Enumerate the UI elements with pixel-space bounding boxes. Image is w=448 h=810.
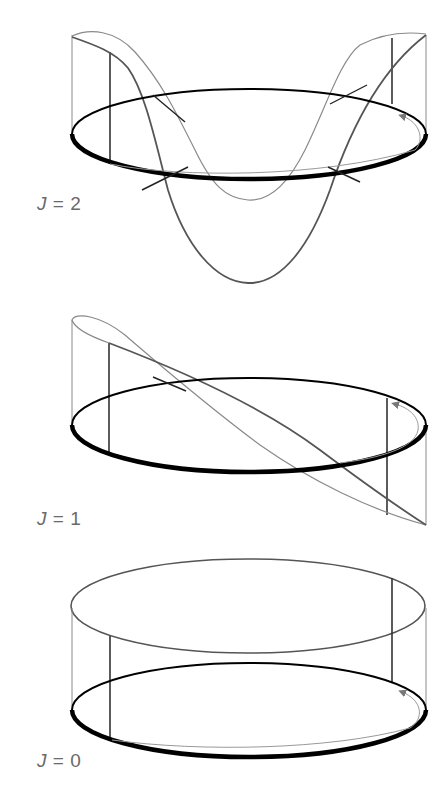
label-value: 1 (70, 508, 81, 529)
top-ring (71, 559, 425, 653)
panel-j2 (72, 32, 426, 283)
label-variable: J (37, 750, 47, 771)
panel-j0 (71, 559, 426, 757)
ring-front (72, 134, 426, 179)
panel-label-j2: J = 2 (37, 193, 81, 215)
panel-label-j1: J = 1 (37, 508, 81, 530)
panel-j1 (72, 316, 426, 525)
ring-front (72, 425, 426, 472)
label-value: 0 (70, 750, 81, 771)
tilt-curve-light (72, 316, 426, 525)
panel-label-j0: J = 0 (37, 750, 81, 772)
ring-back (72, 378, 426, 425)
label-equals: = (47, 750, 70, 771)
wave-curve-dark (72, 35, 426, 283)
ring-arrow-track (112, 692, 419, 747)
label-equals: = (47, 508, 70, 529)
ring-arrow-track (340, 404, 418, 463)
label-variable: J (37, 508, 47, 529)
label-value: 2 (70, 193, 81, 214)
ring-back (72, 663, 426, 710)
label-variable: J (37, 193, 47, 214)
figure-canvas (0, 0, 448, 810)
ring-front (72, 710, 426, 757)
label-equals: = (47, 193, 70, 214)
tilt-curve-dark (109, 343, 426, 525)
wave-curve-light (72, 32, 426, 200)
